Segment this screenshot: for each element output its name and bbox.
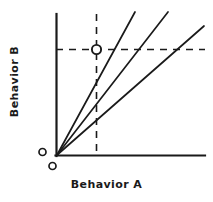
origin-marker-upper-icon: [39, 149, 46, 156]
x-axis-label: Behavior A: [0, 178, 213, 191]
plot-area: [0, 0, 213, 202]
intersection-marker-icon: [92, 45, 101, 54]
y-axis-label: Behavior B: [8, 37, 21, 127]
data-line-shallow: [57, 26, 204, 155]
origin-marker-lower-icon: [49, 163, 56, 170]
behavior-relation-figure: Behavior A Behavior B: [0, 0, 213, 202]
data-line-middle: [57, 12, 168, 155]
